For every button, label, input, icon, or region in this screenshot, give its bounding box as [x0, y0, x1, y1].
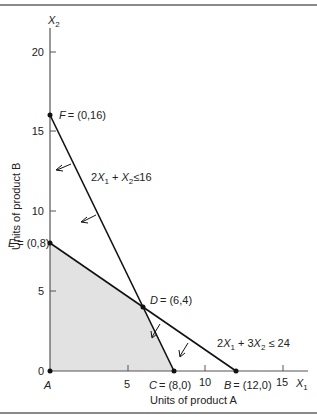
point-B: [234, 369, 239, 374]
point-C: [172, 369, 177, 374]
x-tick-label-10: 10: [199, 376, 211, 388]
y-tick-label-5: 5: [38, 285, 44, 297]
x-tick-label-5: 5: [124, 378, 130, 390]
point-F: [48, 113, 53, 118]
y-axis-symbol: X2: [47, 14, 60, 29]
x-axis-title: Units of product A: [150, 394, 237, 406]
y-tick-label-20: 20: [32, 46, 44, 58]
constraint-label-1: 2X1 + X2≤16: [91, 171, 152, 186]
feasible-region: [50, 243, 174, 371]
y-tick-label-0: 0: [38, 365, 44, 377]
lp-chart: 20 15 10 5 0 5 10 15 X2 X1 A C= (8,0) B=…: [0, 0, 317, 417]
label-B: B= (12,0): [224, 379, 272, 391]
point-A: [48, 369, 53, 374]
y-axis-title: Units of product B: [10, 163, 22, 250]
label-F: F= (0,16): [59, 109, 106, 121]
label-D: D= (6,4): [150, 294, 192, 306]
y-tick-label-15: 15: [32, 125, 44, 137]
label-C: C= (8,0): [149, 379, 191, 391]
label-A: A: [43, 379, 51, 391]
constraint-label-2: 2X1 + 3X2 ≤ 24: [217, 337, 290, 352]
x-tick-label-15: 15: [276, 376, 288, 388]
y-tick-label-10: 10: [32, 205, 44, 217]
x-axis-symbol: X1: [295, 377, 308, 392]
point-D: [141, 305, 146, 310]
